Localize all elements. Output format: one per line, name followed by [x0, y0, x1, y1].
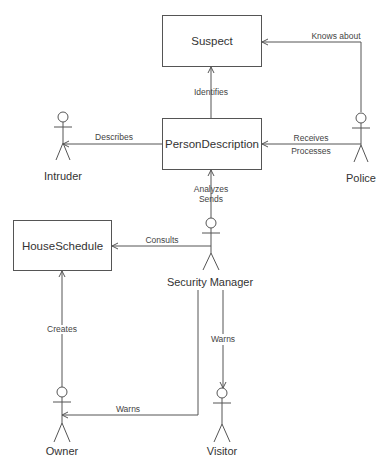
actor-visitor-figure — [213, 388, 231, 442]
uml-diagram: Suspect PersonDescription HouseSchedule … — [0, 0, 386, 468]
class-name: PersonDescription — [165, 138, 259, 150]
class-name: HouseSchedule — [22, 240, 103, 252]
assoc-knows-about — [262, 39, 361, 112]
label-sends: Sends — [199, 195, 223, 204]
actor-security-manager-label: Security Manager — [167, 277, 253, 288]
label-warns-owner: Warns — [116, 405, 140, 414]
assoc-warns-owner — [62, 290, 198, 418]
class-person-description[interactable]: PersonDescription — [162, 118, 262, 170]
actor-police-label: Police — [346, 173, 376, 184]
actor-intruder-label: Intruder — [44, 171, 82, 182]
label-receives: Receives — [294, 134, 329, 143]
label-knows-about: Knows about — [311, 32, 360, 41]
actor-security-manager-figure — [202, 218, 220, 270]
label-creates: Creates — [46, 325, 78, 334]
class-suspect[interactable]: Suspect — [162, 15, 262, 67]
label-consults: Consults — [145, 236, 178, 245]
label-analyzes: Analyzes — [194, 185, 229, 194]
actor-intruder-figure — [54, 112, 72, 160]
actor-owner-label: Owner — [46, 446, 78, 457]
class-house-schedule[interactable]: HouseSchedule — [13, 220, 112, 271]
class-name: Suspect — [191, 35, 233, 47]
label-processes: Processes — [291, 147, 331, 156]
label-describes: Describes — [95, 133, 133, 142]
actor-visitor-label: Visitor — [207, 446, 237, 457]
actor-police-figure — [352, 113, 370, 162]
label-warns-visitor: Warns — [210, 334, 236, 345]
label-identifies: Identifies — [194, 88, 228, 97]
